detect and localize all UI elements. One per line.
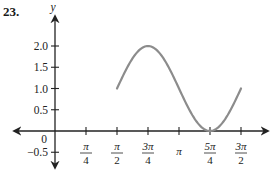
axes: y — [14, 1, 268, 168]
y-tick-label: −0.5 — [27, 146, 48, 158]
x-tick-numerator: 3π — [234, 140, 247, 152]
x-tick-numerator: π — [83, 140, 89, 152]
x-tick-denominator: 2 — [238, 154, 244, 166]
function-curve — [117, 46, 241, 131]
x-tick-label: π — [176, 145, 182, 157]
x-tick-numerator: 3π — [141, 140, 154, 152]
y-tick-label: 0 — [41, 133, 47, 145]
x-tick-numerator: π — [114, 140, 120, 152]
sine-graph: y 2.01.51.00.50−0.5π4π23π4π5π43π2 — [0, 0, 273, 181]
ticks: 2.01.51.00.50−0.5π4π23π4π5π43π2 — [27, 40, 247, 166]
x-tick-denominator: 4 — [207, 154, 213, 166]
y-tick-label: 1.5 — [34, 61, 49, 73]
y-tick-label: 1.0 — [34, 83, 49, 95]
x-tick-numerator: 5π — [204, 140, 216, 152]
x-tick-denominator: 4 — [83, 154, 89, 166]
x-tick-denominator: 4 — [145, 154, 151, 166]
y-tick-label: 0.5 — [34, 104, 49, 116]
y-tick-label: 2.0 — [34, 40, 49, 52]
curve — [117, 46, 241, 131]
x-tick-denominator: 2 — [114, 154, 120, 166]
y-axis-label: y — [49, 1, 56, 14]
